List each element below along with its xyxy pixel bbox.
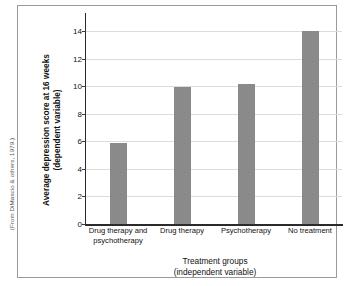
y-tick-mark <box>82 141 86 142</box>
y-tick-label: 12 <box>73 54 82 63</box>
chart-frame: Average depression score at 16 weeks (de… <box>17 5 337 278</box>
y-tick-mark <box>82 114 86 115</box>
x-category-label: No treatment <box>278 226 342 236</box>
y-tick-mark <box>82 59 86 60</box>
bar[interactable] <box>110 143 127 224</box>
x-category-label: Drug therapy <box>150 226 214 236</box>
x-axis-title: Treatment groups (independent variable) <box>86 256 344 277</box>
y-tick-label: 6 <box>78 137 82 146</box>
x-axis-title-line-2: (independent variable) <box>86 267 344 278</box>
y-tick-mark <box>82 196 86 197</box>
x-axis-title-line-1: Treatment groups <box>86 256 344 267</box>
x-category-label: Psychotherapy <box>214 226 278 236</box>
y-axis-title: Average depression score at 16 weeks (de… <box>41 35 65 225</box>
y-tick-mark <box>82 169 86 170</box>
y-tick-mark <box>82 224 86 225</box>
y-tick-mark <box>82 86 86 87</box>
plot-area: 02468101214 <box>86 31 342 224</box>
x-category-label-line: Psychotherapy <box>214 226 278 236</box>
y-axis-title-line-1: Average depression score at 16 weeks <box>41 35 52 225</box>
y-tick-label: 4 <box>78 164 82 173</box>
figure-container: (From DiMascio & others, 1979.) Average … <box>0 0 344 286</box>
x-category-labels-group: Drug therapy andpsychotherapyDrug therap… <box>86 226 344 252</box>
y-tick-label: 14 <box>73 27 82 36</box>
y-tick-label: 2 <box>78 192 82 201</box>
y-tick-mark <box>82 31 86 32</box>
x-category-label-line: Drug therapy <box>150 226 214 236</box>
bar[interactable] <box>174 87 191 224</box>
y-axis-title-line-2: (dependent variable) <box>52 35 63 225</box>
x-category-label-line: psychotherapy <box>86 236 150 246</box>
bar[interactable] <box>302 31 319 224</box>
y-axis-line <box>85 13 86 224</box>
y-tick-label: 10 <box>73 82 82 91</box>
y-tick-label: 8 <box>78 109 82 118</box>
x-category-label-line: Drug therapy and <box>86 226 150 236</box>
x-category-label-line: No treatment <box>278 226 342 236</box>
y-tick-label: 0 <box>78 220 82 229</box>
x-category-label: Drug therapy andpsychotherapy <box>86 226 150 245</box>
bar[interactable] <box>238 84 255 224</box>
